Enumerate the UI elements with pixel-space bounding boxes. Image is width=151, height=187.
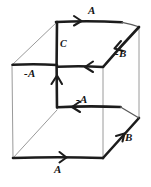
hidden-edge-left-vertical [12,65,13,158]
edge-lower-horizontal-negA [58,106,121,107]
edge-top-A [56,21,122,22]
edge-lower-right-diagonal-B [103,118,139,158]
label-front-vertical-C: C [60,39,67,49]
label-bottom-edge-A: A [54,164,62,175]
label-upper-right-diagonal-negB: -B [115,48,127,59]
hidden-edge-back-top-left [12,22,57,65]
cube-diagram-canvas: A -B C -A -A B A [0,0,151,187]
edge-left-horizontal-negA [13,64,58,65]
label-left-horizontal-negA: -A [24,68,36,79]
edge-right-lower-connector [121,107,140,118]
label-top-edge-A: A [88,5,96,16]
label-lower-right-diagonal-B: B [125,132,133,143]
edge-top-right-back [122,22,140,27]
edge-bottom-A [13,157,103,158]
hidden-edge-back-bottom-left [13,110,57,158]
label-lower-horizontal-negA: -A [76,94,88,105]
edge-middle-horizontal-negA [58,66,104,67]
